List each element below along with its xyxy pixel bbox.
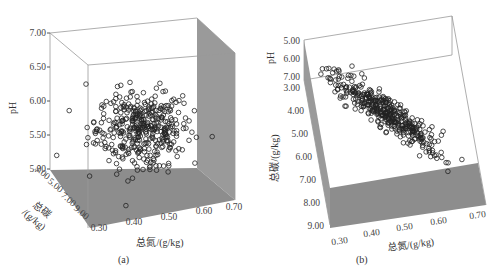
x-tick: 0.60 bbox=[430, 215, 448, 227]
c-tick: 3.00 bbox=[283, 83, 300, 93]
x-tick: 0.60 bbox=[196, 206, 213, 216]
x-axis-title: 总氮/(g/kg) bbox=[136, 236, 183, 249]
y-axis-title: pH bbox=[7, 102, 18, 114]
y-tick: 7.00 bbox=[29, 28, 46, 38]
ph-tick: 7.00 bbox=[283, 72, 300, 82]
y-tick: 6.50 bbox=[29, 62, 46, 72]
c-tick: 7.00 bbox=[299, 175, 316, 185]
ph-axis-title: pH bbox=[265, 52, 276, 64]
x-tick: 0.40 bbox=[126, 217, 143, 227]
x-axis-title: 总氮/(g/kg) bbox=[386, 235, 435, 254]
caption-a: (a) bbox=[118, 254, 129, 265]
y-axis-a: 7.00 6.50 6.00 5.50 5.00 pH bbox=[7, 28, 50, 174]
c-tick: 4.00 bbox=[287, 106, 304, 116]
chart-panel-b: 5.00 6.00 7.00 pH 3.00 4.00 5.00 6.00 7.… bbox=[248, 0, 493, 274]
y-tick: 6.00 bbox=[29, 96, 46, 106]
x-tick: 0.70 bbox=[226, 202, 243, 212]
x-tick: 0.70 bbox=[469, 209, 487, 221]
scatter-points-b bbox=[319, 64, 465, 174]
c-tick: 5.00 bbox=[291, 129, 308, 139]
right-wall bbox=[197, 18, 235, 200]
caption-b: (b) bbox=[356, 254, 368, 265]
c-tick: 8.00 bbox=[303, 198, 320, 208]
ph-axis-b: 5.00 6.00 7.00 pH bbox=[265, 36, 300, 82]
x-tick: 0.50 bbox=[396, 221, 414, 233]
c-axis-b: 3.00 4.00 5.00 6.00 7.00 8.00 9.00 总碳/(g… bbox=[268, 83, 324, 231]
x-tick: 0.30 bbox=[91, 223, 108, 233]
ph-tick: 5.00 bbox=[283, 36, 300, 46]
bottom-plane bbox=[330, 163, 486, 228]
y-tick: 5.50 bbox=[29, 130, 46, 140]
ph-tick: 6.00 bbox=[283, 54, 300, 64]
chart-a-svg: 7.00 6.50 6.00 5.50 5.00 pH 3.00 5.00 7.… bbox=[0, 0, 248, 274]
x-tick: 0.50 bbox=[161, 212, 178, 222]
chart-panel-a: 7.00 6.50 6.00 5.50 5.00 pH 3.00 5.00 7.… bbox=[0, 0, 248, 274]
floor-plane bbox=[50, 168, 235, 228]
chart-b-svg: 5.00 6.00 7.00 pH 3.00 4.00 5.00 6.00 7.… bbox=[248, 0, 493, 274]
x-tick: 0.40 bbox=[363, 227, 381, 239]
c-tick: 6.00 bbox=[295, 152, 312, 162]
x-tick: 0.30 bbox=[331, 235, 349, 247]
c-tick: 9.00 bbox=[307, 221, 324, 231]
c-axis-title: 总碳/(g/kg) bbox=[268, 134, 281, 181]
